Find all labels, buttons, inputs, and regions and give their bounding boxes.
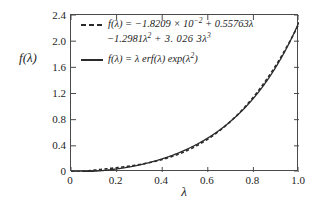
y-tick-label: 0.8	[36, 114, 66, 125]
plot-area: f(λ) = −1.8209 × 10−2 + 0.55763λ −1.2981…	[70, 14, 298, 171]
axis-tick-marks	[71, 15, 299, 172]
x-axis-title: λ	[70, 184, 298, 200]
series-line-exact	[71, 22, 299, 172]
figure-chart: f(λ) 2.4 2.0 1.6 1.2 0.8 0.4 0 0 0.2 0.4…	[0, 0, 318, 204]
y-axis-tick-labels: 2.4 2.0 1.6 1.2 0.8 0.4 0	[32, 0, 66, 204]
y-tick-label: 1.2	[36, 88, 66, 99]
y-tick-label: 0.4	[36, 140, 66, 151]
plot-canvas	[71, 15, 299, 172]
y-tick-label: 2.4	[36, 10, 66, 21]
y-tick-label: 1.6	[36, 62, 66, 73]
y-tick-label: 2.0	[36, 36, 66, 47]
